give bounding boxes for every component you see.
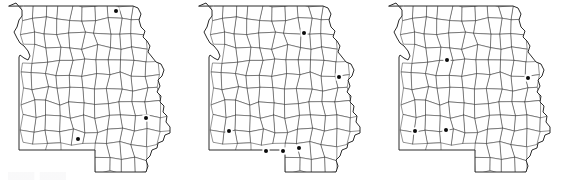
marker-west-icon[interactable] [227,129,231,133]
county-polygon[interactable] [413,3,427,18]
county-polygon[interactable] [31,62,48,73]
county-polygon[interactable] [247,19,260,35]
county-polygon[interactable] [237,3,249,19]
marker-northeast-icon[interactable] [114,9,118,13]
county-polygon[interactable] [236,47,251,62]
county-polygon[interactable] [491,34,502,49]
map-panel-3[interactable] [380,0,570,183]
county-polygon[interactable] [259,87,275,103]
county-polygon[interactable] [21,115,37,133]
county-polygon[interactable] [426,47,441,62]
county-polygon[interactable] [272,74,287,90]
marker-south-3-icon[interactable] [297,146,301,150]
county-polygon[interactable] [462,74,477,90]
county-polygon[interactable] [488,115,503,129]
county-polygon[interactable] [109,48,122,60]
county-polygon[interactable] [132,47,147,62]
county-polygon[interactable] [69,87,85,103]
county-polygon[interactable] [33,3,47,18]
county-polygon[interactable] [108,115,123,129]
county-polygon[interactable] [273,88,285,105]
county-polygon[interactable] [511,34,527,50]
county-polygon[interactable] [44,17,57,35]
county-polygon[interactable] [475,89,489,105]
county-polygon[interactable] [96,45,111,60]
county-polygon[interactable] [131,34,147,50]
county-polygon[interactable] [45,130,61,143]
county-polygon[interactable] [95,89,109,105]
county-polygon[interactable] [402,63,413,73]
county-polygon[interactable] [109,102,121,116]
county-polygon[interactable] [321,60,336,76]
county-polygon[interactable] [500,34,512,50]
county-polygon[interactable] [234,17,247,35]
county-polygon[interactable] [260,75,274,87]
county-polygon[interactable] [401,18,415,34]
county-polygon[interactable] [463,88,475,105]
county-polygon[interactable] [425,115,440,132]
county-polygon[interactable] [46,47,61,62]
county-polygon[interactable] [325,115,338,131]
county-polygon[interactable] [70,75,84,87]
marker-southwest-icon[interactable] [76,137,80,141]
marker-south-central-icon[interactable] [444,128,448,132]
county-polygon[interactable] [235,115,250,132]
county-polygon[interactable] [235,130,251,143]
county-polygon[interactable] [450,75,464,87]
county-polygon[interactable] [411,62,428,73]
marker-east-icon[interactable] [144,116,148,120]
county-polygon[interactable] [476,45,491,60]
marker-east-icon[interactable] [337,75,341,79]
county-polygon[interactable] [47,3,59,19]
marker-south-1-icon[interactable] [264,149,268,153]
county-polygon[interactable] [246,75,260,88]
county-polygon[interactable] [425,130,441,143]
county-polygon[interactable] [437,19,450,35]
county-polygon[interactable] [22,63,33,73]
county-polygon[interactable] [298,115,313,129]
map-panel-2[interactable] [190,0,380,183]
county-polygon[interactable] [21,32,35,44]
county-polygon[interactable] [310,34,322,50]
county-polygon[interactable] [427,3,439,19]
county-polygon[interactable] [286,60,300,75]
county-polygon[interactable] [512,47,527,62]
county-polygon[interactable] [111,34,122,49]
county-polygon[interactable] [299,102,311,116]
county-polygon[interactable] [57,19,70,35]
county-polygon[interactable] [82,74,97,90]
marker-north-central-icon[interactable] [445,58,449,62]
marker-south-2-icon[interactable] [281,149,285,153]
county-polygon[interactable] [225,100,236,118]
county-polygon[interactable] [211,115,227,133]
county-polygon[interactable] [285,89,299,105]
county-polygon[interactable] [476,60,490,75]
marker-north-icon[interactable] [302,31,306,35]
county-polygon[interactable] [223,3,237,18]
county-polygon[interactable] [322,47,337,62]
county-polygon[interactable] [82,6,96,21]
county-polygon[interactable] [415,100,426,118]
county-polygon[interactable] [212,63,223,73]
county-polygon[interactable] [424,17,437,35]
county-polygon[interactable] [272,6,286,21]
marker-east-icon[interactable] [526,76,530,80]
county-polygon[interactable] [120,34,132,50]
county-polygon[interactable] [56,75,70,88]
county-polygon[interactable] [131,60,146,76]
county-polygon[interactable] [299,48,312,60]
county-polygon[interactable] [436,75,450,88]
county-polygon[interactable] [401,32,415,44]
county-polygon[interactable] [146,75,160,88]
marker-southwest-icon[interactable] [413,129,417,133]
county-polygon[interactable] [35,100,46,118]
county-polygon[interactable] [449,87,465,103]
county-polygon[interactable] [211,18,225,34]
county-polygon[interactable] [489,48,502,60]
county-polygon[interactable] [511,60,526,76]
county-polygon[interactable] [489,102,501,116]
map-panel-1[interactable] [0,0,190,183]
county-polygon[interactable] [515,115,528,131]
county-polygon[interactable] [221,62,238,73]
county-polygon[interactable] [211,32,225,44]
